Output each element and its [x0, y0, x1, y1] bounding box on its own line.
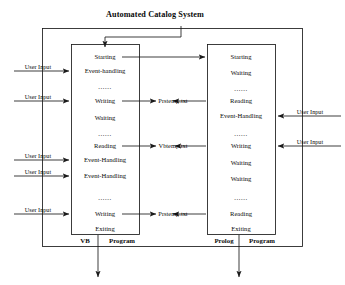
right-user-input-label-2: User Input	[297, 139, 323, 145]
vb-state-5: ......	[98, 131, 112, 138]
vb-state-7: Event-Handling	[84, 157, 126, 164]
right-user-input-label-1: User Input	[297, 109, 323, 115]
prolog-state-10: Reading	[230, 211, 252, 218]
vb-state-10: Writing	[95, 211, 115, 218]
vb-legend-language: VB	[80, 238, 89, 245]
vb-state-8: Event-Handling	[84, 173, 126, 180]
prolog-state-0: Starting	[231, 54, 252, 61]
vb-state-9: ......	[98, 195, 112, 202]
left-user-input-label-2: User Input	[25, 94, 51, 100]
prolog-state-9: ......	[234, 195, 248, 202]
vb-state-11: Exiting	[95, 226, 114, 233]
prolog-state-6: Writing	[231, 143, 251, 150]
temp-file-label-2: Vbtemp.txt	[159, 143, 188, 149]
left-user-input-label-4: User Input	[25, 169, 51, 175]
prolog-state-5: ......	[234, 131, 248, 138]
prolog-state-8: Waiting	[231, 176, 252, 183]
page-title: Automated Catalog System	[106, 11, 204, 19]
left-user-input-label-3: User Input	[25, 153, 51, 159]
title-connector	[105, 26, 181, 47]
temp-file-label-1: Prstemp.txt	[158, 98, 187, 104]
prolog-state-3: Reading	[230, 98, 252, 105]
prolog-legend-kind: Program	[249, 238, 275, 245]
vb-legend-kind: Program	[109, 238, 135, 245]
automated-catalog-system-diagram: Automated Catalog System Starting Event-…	[0, 0, 345, 285]
vb-state-0: Starting	[95, 54, 116, 61]
vb-state-6: Reading	[94, 143, 116, 150]
vb-state-2: ......	[98, 84, 112, 91]
temp-file-label-3: Prstemp.txt	[158, 211, 187, 217]
prolog-legend-language: Prolog	[214, 238, 233, 245]
left-user-input-label-5: User Input	[25, 207, 51, 213]
vb-state-1: Event-handling	[85, 68, 126, 75]
prolog-state-4: Event-Handling	[220, 113, 262, 120]
prolog-state-1: Waiting	[231, 70, 252, 77]
prolog-state-7: Waiting	[231, 160, 252, 167]
vb-state-4: Waiting	[95, 115, 116, 122]
prolog-state-11: Exiting	[231, 226, 250, 233]
vb-state-3: Writing	[95, 98, 115, 105]
left-user-input-label-1: User Input	[25, 64, 51, 70]
prolog-state-2: ......	[234, 86, 248, 93]
